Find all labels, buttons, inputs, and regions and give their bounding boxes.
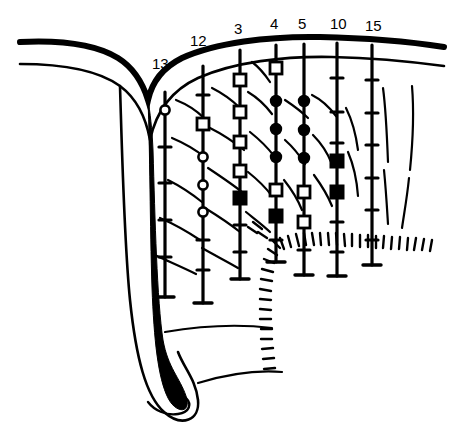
marker-open-square bbox=[298, 216, 310, 228]
hatch-mark bbox=[258, 232, 267, 238]
marker-open-circle bbox=[198, 180, 207, 189]
surface-thin-line bbox=[20, 57, 444, 140]
marker-filled-square bbox=[331, 155, 344, 168]
marker-open-square bbox=[270, 184, 282, 196]
marker-filled-circle bbox=[299, 125, 309, 135]
column-label-12: 12 bbox=[190, 32, 207, 49]
borehole-column-3 bbox=[231, 50, 249, 279]
hatch-mark bbox=[320, 233, 321, 245]
hatch-mark bbox=[430, 240, 432, 251]
marker-filled-circle bbox=[299, 96, 309, 106]
surface-thick-line bbox=[20, 37, 444, 100]
hatch-mark bbox=[260, 299, 271, 300]
hatch-mark bbox=[383, 236, 384, 248]
marker-filled-circle bbox=[299, 153, 309, 163]
hatch-mark bbox=[288, 236, 291, 247]
column-label-15: 15 bbox=[365, 17, 382, 34]
marker-open-square bbox=[298, 186, 310, 198]
hatch-mark bbox=[261, 279, 272, 281]
hatch-mark bbox=[399, 237, 400, 249]
hatch-mark bbox=[263, 358, 274, 359]
hatch-mark bbox=[296, 234, 299, 246]
marker-open-circle bbox=[198, 207, 207, 216]
marker-filled-circle bbox=[271, 152, 281, 162]
cross-section-drawing bbox=[0, 0, 464, 444]
marker-filled-circle bbox=[271, 124, 281, 134]
hatch-mark bbox=[262, 348, 273, 349]
hatch-mark bbox=[414, 238, 416, 250]
marker-open-square bbox=[234, 136, 246, 148]
column-label-5: 5 bbox=[298, 15, 306, 32]
borehole-column-4 bbox=[267, 45, 285, 262]
marker-filled-square bbox=[331, 186, 344, 199]
surface-lines bbox=[20, 37, 444, 140]
hatch-mark bbox=[248, 227, 257, 233]
fold-outer-line bbox=[120, 86, 198, 421]
column-label-10: 10 bbox=[330, 15, 347, 32]
column-label-13: 13 bbox=[152, 55, 169, 72]
bedding-texture-strokes bbox=[157, 62, 413, 383]
figure-canvas: 13123451015 bbox=[0, 0, 464, 444]
column-label-3: 3 bbox=[234, 20, 242, 37]
hatch-mark bbox=[264, 368, 275, 369]
borehole-column-13 bbox=[156, 92, 174, 297]
marker-open-square bbox=[234, 165, 246, 177]
marker-open-circle bbox=[198, 152, 207, 161]
column-label-4: 4 bbox=[270, 15, 278, 32]
hatch-mark bbox=[422, 239, 424, 250]
borehole-column-10 bbox=[328, 43, 346, 276]
marker-open-square bbox=[270, 62, 282, 74]
marker-open-square bbox=[234, 106, 246, 118]
marker-filled-square bbox=[234, 192, 247, 205]
hatch-mark bbox=[344, 234, 345, 246]
hatch-mark bbox=[260, 309, 271, 310]
marker-filled-square bbox=[270, 210, 283, 223]
marker-open-circle bbox=[160, 105, 169, 114]
borehole-column-15 bbox=[363, 45, 381, 265]
borehole-column-12 bbox=[194, 66, 212, 303]
hatch-mark bbox=[328, 233, 329, 245]
marker-open-square bbox=[234, 74, 246, 86]
hatch-mark bbox=[312, 233, 314, 245]
hatch-mark bbox=[407, 238, 408, 250]
marker-open-square bbox=[197, 118, 209, 130]
hatch-mark bbox=[262, 269, 273, 272]
marker-filled-circle bbox=[271, 96, 281, 106]
hatch-mark bbox=[391, 237, 392, 249]
hatch-mark bbox=[260, 289, 271, 291]
fold-structure bbox=[120, 86, 198, 421]
